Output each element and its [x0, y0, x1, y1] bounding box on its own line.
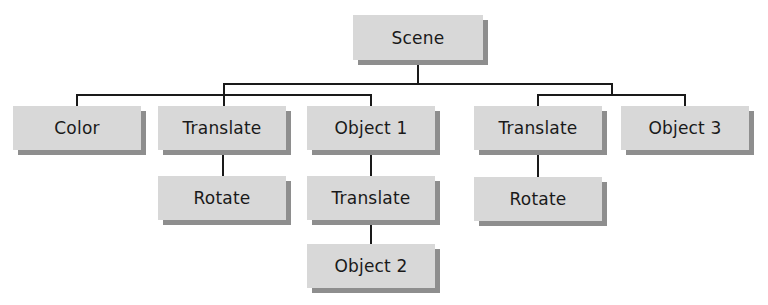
node-translate-left: Translate	[158, 106, 286, 150]
connector-color-drop	[76, 94, 78, 106]
node-label: Rotate	[510, 189, 567, 209]
connector-right-lower-horizontal	[537, 94, 685, 96]
node-label: Rotate	[194, 188, 251, 208]
node-translate-mid: Translate	[307, 176, 435, 220]
connector-object1-drop	[370, 94, 372, 106]
node-object3: Object 3	[621, 106, 749, 150]
node-translate-right: Translate	[474, 106, 602, 150]
node-rotate-right: Rotate	[474, 177, 602, 221]
node-label: Scene	[392, 28, 445, 48]
node-label: Color	[54, 118, 99, 138]
scene-graph-diagram: Scene Color Translate Object 1 Translate…	[0, 0, 768, 305]
connector-scene-down	[417, 60, 419, 83]
node-label: Translate	[332, 188, 411, 208]
node-label: Object 3	[648, 118, 721, 138]
connector-object1-to-translate	[370, 155, 372, 176]
node-label: Translate	[499, 118, 578, 138]
connector-object3-drop	[684, 94, 686, 106]
node-scene: Scene	[353, 15, 483, 60]
node-object1: Object 1	[307, 106, 435, 150]
node-object2: Object 2	[307, 244, 435, 288]
connector-translate-left-to-rotate	[222, 155, 224, 176]
connector-translate-right-drop	[537, 94, 539, 106]
node-label: Translate	[183, 118, 262, 138]
connector-upper-horizontal	[223, 83, 612, 85]
node-label: Object 2	[334, 256, 407, 276]
node-color: Color	[13, 106, 141, 150]
connector-translate-right-to-rotate	[537, 155, 539, 177]
connector-left-lower-horizontal	[76, 94, 371, 96]
node-label: Object 1	[334, 118, 407, 138]
connector-translate-to-object2	[370, 225, 372, 244]
node-rotate-left: Rotate	[158, 176, 286, 220]
